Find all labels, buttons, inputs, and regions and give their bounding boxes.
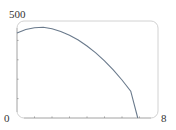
y-max-label: 500: [9, 8, 26, 20]
origin-label: 0: [4, 112, 10, 124]
x-max-label: 8: [161, 112, 167, 124]
plot-frame: [17, 21, 158, 118]
chart: 500 0 8: [0, 0, 176, 130]
data-curve: [17, 27, 138, 118]
